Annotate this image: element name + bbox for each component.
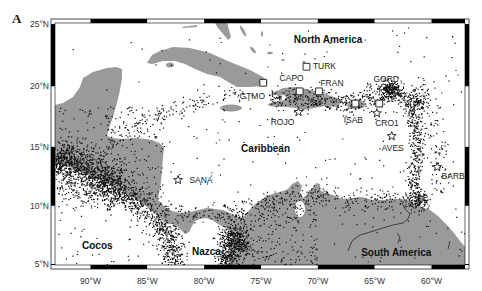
panel-label: A xyxy=(12,11,22,26)
square-marker-icon xyxy=(303,63,310,70)
lon-tick-label: 80°W xyxy=(194,276,215,286)
region-label-nazca: Nazca xyxy=(192,246,221,257)
lon-tick-label: 65°W xyxy=(364,276,385,286)
frame-band-top xyxy=(55,19,91,23)
frame-band-left xyxy=(51,264,55,265)
lon-tick-label: 75°W xyxy=(251,276,272,286)
station-label: ROJO xyxy=(271,117,295,127)
station-label: GTMO xyxy=(240,91,266,101)
lat-tick-label: 5°N xyxy=(35,259,49,269)
frame-band-right xyxy=(465,206,469,264)
landmass-jamaica xyxy=(220,105,242,112)
frame-band-bottom xyxy=(55,265,91,269)
station-label: CRO1 xyxy=(375,118,399,128)
frame-band-right xyxy=(465,147,469,206)
frame-band-top xyxy=(147,19,204,23)
square-marker-icon xyxy=(376,100,383,107)
frame-band-top xyxy=(204,19,261,23)
region-label-south-america: South America xyxy=(361,247,432,258)
region-label-cocos: Cocos xyxy=(82,240,113,251)
lon-tick-label: 70°W xyxy=(307,276,328,286)
frame-band-bottom xyxy=(147,265,204,269)
caribbean-seismicity-map: A xyxy=(0,0,482,291)
station-label: AVES xyxy=(382,143,404,153)
frame-band-top xyxy=(318,19,375,23)
frame-band-left xyxy=(51,24,55,86)
frame-band-top xyxy=(261,19,318,23)
frame-band-top xyxy=(375,19,432,23)
frame-band-bottom xyxy=(261,265,318,269)
landmass-isle-of-youth xyxy=(166,63,174,68)
frame-band-right xyxy=(465,23,469,24)
station-label: ISAB xyxy=(344,115,364,125)
station-label: FRAN xyxy=(320,78,343,88)
longitude-axis: 90°W 85°W 80°W 75°W 70°W 65°W 60°W xyxy=(80,276,442,286)
region-label-north-america: North America xyxy=(294,34,363,45)
frame-band-right xyxy=(465,24,469,86)
frame-band-top xyxy=(91,19,148,23)
lat-tick-label: 15°N xyxy=(30,142,49,152)
region-label-caribbean: Caribbean xyxy=(241,143,290,154)
station-label: SANA xyxy=(189,175,212,185)
frame-band-left xyxy=(51,23,55,24)
lon-tick-label: 60°W xyxy=(421,276,442,286)
station-label: BARB xyxy=(442,171,465,181)
station-label: GORD xyxy=(373,74,399,84)
square-marker-icon xyxy=(316,88,323,95)
frame-band-bottom xyxy=(204,265,261,269)
frame-band-bottom xyxy=(375,265,432,269)
lon-tick-label: 90°W xyxy=(80,276,101,286)
lon-tick-label: 85°W xyxy=(137,276,158,286)
lat-tick-label: 20°N xyxy=(30,81,49,91)
frame-band-top xyxy=(432,19,465,23)
square-marker-icon xyxy=(260,79,267,86)
frame-band-right xyxy=(465,86,469,146)
frame-band-bottom xyxy=(318,265,375,269)
station-label: TURK xyxy=(313,61,336,71)
frame-band-left xyxy=(51,147,55,206)
frame-band-bottom xyxy=(91,265,148,269)
lat-tick-label: 25°N xyxy=(30,19,49,29)
square-marker-icon xyxy=(296,88,303,95)
lat-tick-label: 10°N xyxy=(30,201,49,211)
station-label: CAPO xyxy=(280,73,304,83)
frame-band-right xyxy=(465,264,469,265)
frame-band-left xyxy=(51,206,55,264)
square-marker-icon xyxy=(352,100,359,107)
frame-band-left xyxy=(51,86,55,146)
latitude-axis: 25°N 20°N 15°N 10°N 5°N xyxy=(30,19,49,269)
frame-band-bottom xyxy=(432,265,465,269)
